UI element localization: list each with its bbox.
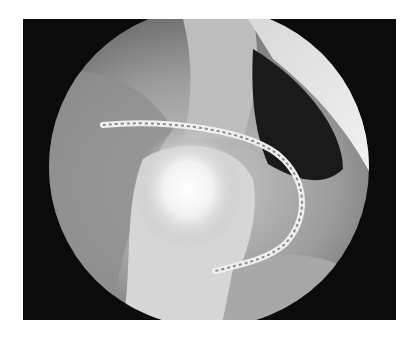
scope-field xyxy=(23,19,396,320)
photo-frame xyxy=(23,19,396,320)
arthroscopic-image xyxy=(23,19,396,320)
